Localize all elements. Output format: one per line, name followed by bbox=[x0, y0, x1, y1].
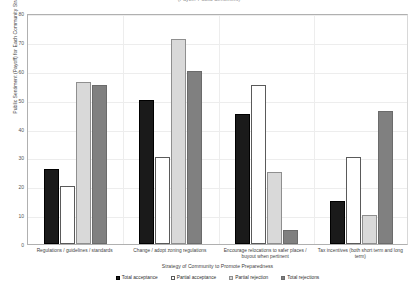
legend-swatch-icon bbox=[116, 276, 120, 280]
bar[interactable] bbox=[171, 39, 186, 244]
x-axis-category-label: Change / adopt zoning regulations bbox=[122, 248, 217, 254]
legend-label: Partial acceptance bbox=[177, 275, 216, 280]
y-axis-tick-label: 30 bbox=[4, 155, 24, 161]
y-axis-tick-label: 60 bbox=[4, 69, 24, 75]
bar[interactable] bbox=[44, 169, 59, 244]
y-axis-tick-label: 80 bbox=[4, 11, 24, 17]
y-axis-tick-label: 40 bbox=[4, 127, 24, 133]
legend-swatch-icon bbox=[229, 276, 233, 280]
bar-group bbox=[219, 15, 314, 244]
bar[interactable] bbox=[283, 230, 298, 244]
y-axis-tick-label: 20 bbox=[4, 184, 24, 190]
bar[interactable] bbox=[155, 157, 170, 244]
x-axis-title: Strategy of Community to Promote Prepare… bbox=[27, 263, 408, 269]
plot-area bbox=[27, 14, 408, 245]
legend-item[interactable]: Partial rejection bbox=[229, 275, 268, 280]
bar[interactable] bbox=[267, 172, 282, 244]
legend-item[interactable]: Total rejections bbox=[281, 275, 319, 280]
legend-swatch-icon bbox=[281, 276, 285, 280]
bar[interactable] bbox=[235, 114, 250, 244]
chart-legend: Total acceptancePartial acceptancePartia… bbox=[27, 275, 408, 280]
bar[interactable] bbox=[76, 82, 91, 244]
legend-label: Total rejections bbox=[287, 275, 319, 280]
legend-item[interactable]: Partial acceptance bbox=[171, 275, 216, 280]
bar-group bbox=[314, 15, 409, 244]
bar[interactable] bbox=[92, 85, 107, 244]
bar[interactable] bbox=[378, 111, 393, 244]
y-axis-tick-label: 10 bbox=[4, 213, 24, 219]
y-axis-tick-label: 50 bbox=[4, 98, 24, 104]
y-axis-tick-label: 0 bbox=[4, 242, 24, 248]
legend-swatch-icon bbox=[171, 276, 175, 280]
bar[interactable] bbox=[139, 100, 154, 244]
bar-chart: (Payoff: Public Sentiment) Public Sentim… bbox=[0, 0, 418, 288]
bar[interactable] bbox=[330, 201, 345, 244]
bar[interactable] bbox=[187, 71, 202, 244]
y-axis-tick-label: 70 bbox=[4, 40, 24, 46]
bar[interactable] bbox=[346, 157, 361, 244]
x-axis-category-label: Tax incentives (both short term and long… bbox=[313, 248, 408, 260]
bar[interactable] bbox=[60, 186, 75, 244]
bar-group bbox=[123, 15, 218, 244]
legend-label: Total acceptance bbox=[122, 275, 158, 280]
bar[interactable] bbox=[362, 215, 377, 244]
x-axis-category-label: Regulations / guidelines / standards bbox=[27, 248, 122, 254]
chart-title: (Payoff: Public Sentiment) bbox=[0, 0, 418, 2]
bar[interactable] bbox=[251, 85, 266, 244]
bar-group bbox=[28, 15, 123, 244]
legend-label: Partial rejection bbox=[235, 275, 268, 280]
x-axis-category-label: Encourage relocations to safer places / … bbox=[218, 248, 313, 260]
legend-item[interactable]: Total acceptance bbox=[116, 275, 158, 280]
